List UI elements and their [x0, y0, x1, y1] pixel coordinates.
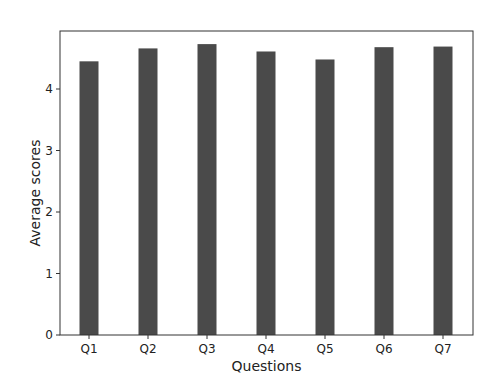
bar-q1 — [80, 61, 99, 335]
x-tick-label: Q7 — [434, 342, 451, 356]
bar-chart: 01234 Q1Q2Q3Q4Q5Q6Q7 Questions Average s… — [0, 0, 497, 381]
bar-q4 — [257, 51, 276, 335]
x-tick-label: Q3 — [198, 342, 215, 356]
bar-q6 — [375, 47, 394, 335]
bar-q5 — [316, 59, 335, 335]
bar-q3 — [198, 44, 217, 335]
y-tick-label: 2 — [45, 205, 53, 219]
y-tick-label: 0 — [45, 328, 53, 342]
x-axis-label: Questions — [232, 358, 302, 374]
x-tick-label: Q1 — [80, 342, 97, 356]
bar-q7 — [434, 47, 453, 335]
x-axis-ticks: Q1Q2Q3Q4Q5Q6Q7 — [80, 335, 451, 356]
y-tick-label: 3 — [45, 144, 53, 158]
bars-group — [80, 44, 453, 335]
x-tick-label: Q2 — [139, 342, 156, 356]
y-tick-label: 1 — [45, 267, 53, 281]
y-axis-label: Average scores — [27, 140, 43, 247]
y-axis-ticks: 01234 — [45, 82, 60, 342]
y-tick-label: 4 — [45, 82, 53, 96]
bar-q2 — [139, 48, 158, 335]
x-tick-label: Q6 — [375, 342, 392, 356]
x-tick-label: Q5 — [316, 342, 333, 356]
x-tick-label: Q4 — [257, 342, 274, 356]
